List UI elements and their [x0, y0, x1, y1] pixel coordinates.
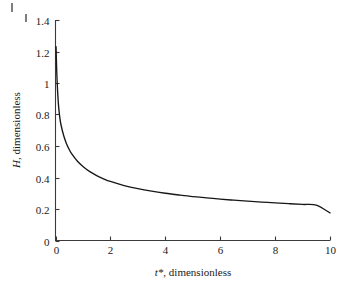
y-tick-label: 1.4	[36, 15, 50, 27]
x-tick-label: 10	[325, 244, 337, 256]
x-axis-label: t*, dimensionless	[155, 266, 231, 278]
y-tick-label: 0.6	[36, 141, 50, 153]
data-series-line	[56, 47, 330, 213]
y-tick-label: 0.2	[36, 204, 50, 216]
chart-axes	[56, 20, 331, 241]
y-axis-tick-labels: 00.20.40.60.811.21.4	[36, 15, 50, 248]
figure-container: 00.20.40.60.811.21.4 0246810 t*, dimensi…	[0, 0, 348, 291]
x-tick-label: 2	[108, 244, 114, 256]
x-tick-label: 4	[163, 244, 169, 256]
chart-plot-area: 00.20.40.60.811.21.4 0246810 t*, dimensi…	[0, 0, 348, 291]
x-axis-ticks	[57, 237, 331, 241]
x-tick-label: 0	[54, 244, 60, 256]
y-tick-label: 1	[44, 78, 50, 90]
x-tick-label: 8	[273, 244, 279, 256]
y-tick-label: 0.8	[36, 109, 50, 121]
y-tick-label: 0.4	[36, 173, 50, 185]
y-axis-label: H, dimensionless	[10, 92, 22, 169]
x-axis-tick-labels: 0246810	[54, 244, 337, 256]
x-tick-label: 6	[218, 244, 224, 256]
y-tick-label: 0	[44, 236, 50, 248]
y-tick-label: 1.2	[36, 47, 50, 59]
